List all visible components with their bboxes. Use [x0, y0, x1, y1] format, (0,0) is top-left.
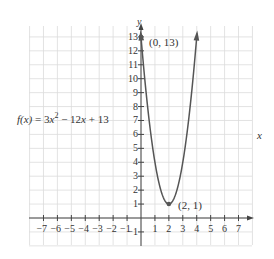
x-tick-label: 1 — [152, 224, 157, 234]
y-tick-label: 10 — [128, 74, 138, 84]
y-tick-label: 5 — [133, 143, 138, 153]
y-tick-label: 13 — [128, 32, 138, 42]
annotation-vertex: (2, 1) — [178, 200, 202, 211]
y-tick-label: 1 — [133, 199, 138, 209]
annotation-y-intercept: (0, 13) — [149, 37, 178, 48]
x-tick-label: 7 — [236, 224, 241, 234]
y-tick-label: 9 — [133, 88, 138, 98]
y-tick-label: 6 — [133, 129, 138, 139]
y-tick-label: 3 — [133, 171, 138, 181]
y-tick-label: 8 — [133, 102, 138, 112]
x-tick-label: −3 — [92, 224, 103, 234]
x-axis-label: x — [257, 130, 262, 141]
y-tick-label: 12 — [128, 46, 138, 56]
x-tick-label: −6 — [50, 224, 61, 234]
y-axis-label: y — [137, 17, 141, 27]
x-tick-label: 4 — [194, 224, 199, 234]
x-tick-label: −4 — [78, 224, 89, 234]
x-tick-label: 3 — [180, 224, 185, 234]
y-tick-label: 4 — [133, 157, 138, 167]
y-tick-label: 7 — [133, 115, 138, 125]
y-tick-label: 2 — [133, 185, 138, 195]
x-tick-label: 5 — [208, 224, 213, 234]
x-tick-label: −7 — [36, 224, 47, 234]
x-tick-label: 6 — [222, 224, 227, 234]
y-tick-label: 11 — [128, 60, 138, 70]
function-label: f(x) = 3x2 − 12x + 13 — [17, 111, 109, 125]
x-tick-label: 2 — [166, 224, 171, 234]
x-tick-label: −5 — [64, 224, 75, 234]
x-tick-label: −2 — [106, 224, 117, 234]
y-tick-label: −1 — [127, 227, 138, 237]
